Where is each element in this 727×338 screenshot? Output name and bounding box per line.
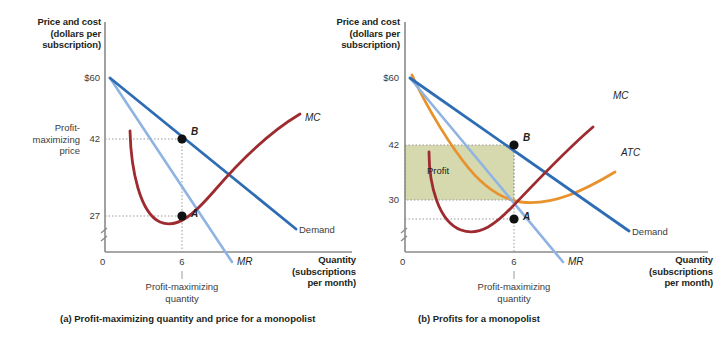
panel-b-ytick-30: 30 (379, 194, 399, 205)
panel-a-ytick-27: 27 (80, 210, 100, 221)
mr-curve (110, 78, 232, 262)
panel-b-mr-label: MR (568, 256, 584, 267)
panel-b-profit-max-quantity-note: Profit-maximizing quantity (454, 281, 574, 304)
panel-b-ytick-42: 42 (379, 139, 399, 150)
panel-a-caption: (a) Profit-maximizing quantity and price… (60, 313, 315, 324)
demand-curve (110, 78, 296, 229)
panel-a: Price and cost (dollars per subscription… (0, 0, 364, 338)
panel-b-ytick-60: $60 (355, 72, 399, 83)
panel-a-xtick-0: 0 (100, 256, 105, 267)
axis-break-icon (401, 228, 407, 241)
panel-b-atc-label: ATC (621, 147, 640, 158)
panel-a-ytick-42: 42 (80, 133, 100, 144)
point-a-marker (177, 211, 186, 220)
panel-a-point-b-label: B (191, 126, 198, 137)
panel-b: Price and cost (dollars per subscription… (363, 0, 727, 338)
monopoly-figure: Price and cost (dollars per subscription… (0, 0, 727, 338)
panel-a-profit-max-quantity-note: Profit-maximizing quantity (122, 281, 242, 304)
profit-area (405, 145, 514, 200)
panel-a-x-axis-title: Quantity (subscriptions per month) (250, 254, 356, 289)
panel-b-x-axis-title: Quantity (subscriptions per month) (607, 254, 713, 289)
panel-b-xtick-0: 0 (400, 256, 405, 267)
panel-a-demand-label: Demand (299, 224, 335, 235)
mc-curve (130, 114, 300, 224)
panel-a-point-a-label: A (191, 208, 198, 219)
point-b-marker (177, 134, 186, 143)
panel-a-y-axis-title: Price and cost (dollars per subscription… (6, 16, 101, 51)
panel-b-y-axis-title: Price and cost (dollars per subscription… (305, 16, 400, 51)
point-b-marker (509, 140, 518, 149)
panel-b-point-b-label: B (523, 132, 530, 143)
panel-b-point-a-label: A (523, 211, 530, 222)
panel-b-caption: (b) Profits for a monopolist (418, 313, 540, 324)
panel-b-xtick-6: 6 (504, 256, 524, 268)
panel-a-profit-max-price-note: Profit- maximizing price (14, 122, 80, 157)
axis-break-icon (101, 228, 107, 241)
panel-b-profit-label: Profit (427, 165, 449, 176)
panel-a-mc-label: MC (305, 112, 321, 123)
point-a-marker (509, 214, 518, 223)
panel-a-xtick-6: 6 (172, 256, 192, 268)
panel-b-demand-label: Demand (632, 226, 668, 237)
panel-a-ytick-60: $60 (56, 72, 100, 83)
panel-b-mc-label: MC (613, 90, 629, 101)
